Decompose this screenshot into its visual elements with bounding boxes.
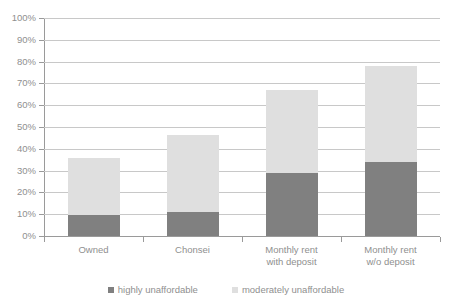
x-axis-label-4: Monthly rent w/o deposit bbox=[341, 244, 440, 268]
x-axis-label-3: Monthly rent with deposit bbox=[242, 244, 341, 268]
y-axis-label: 20% bbox=[0, 187, 36, 197]
x-axis-tick bbox=[44, 237, 45, 242]
y-axis-label: 90% bbox=[0, 35, 36, 45]
bar-segment-highly-unaffordable[interactable] bbox=[365, 162, 417, 236]
bar-segment-moderately-unaffordable[interactable] bbox=[68, 158, 120, 214]
y-axis-tick bbox=[39, 127, 44, 128]
bar-segment-highly-unaffordable[interactable] bbox=[266, 173, 318, 236]
x-axis-tick bbox=[143, 237, 144, 242]
y-axis-tick bbox=[39, 214, 44, 215]
x-axis-label-2: Chonsei bbox=[143, 244, 242, 256]
x-axis-label-1: Owned bbox=[44, 244, 143, 256]
bar-segment-moderately-unaffordable[interactable] bbox=[167, 135, 219, 211]
legend-item-1[interactable]: highly unaffordable bbox=[108, 285, 198, 295]
stacked-bar-chart: 100%90%80%70%60%50%40%30%20%10%0%OwnedCh… bbox=[0, 0, 452, 304]
y-axis-tick bbox=[39, 62, 44, 63]
y-axis-label: 40% bbox=[0, 144, 36, 154]
y-axis-label: 100% bbox=[0, 13, 36, 23]
legend-label: moderately unaffordable bbox=[242, 285, 344, 295]
bar-4[interactable] bbox=[365, 18, 417, 236]
chart-legend: highly unaffordablemoderately unaffordab… bbox=[0, 282, 452, 298]
legend-swatch-icon bbox=[108, 287, 114, 293]
x-axis-tick bbox=[440, 237, 441, 242]
legend-swatch-icon bbox=[232, 287, 238, 293]
x-axis-tick bbox=[341, 237, 342, 242]
y-axis-tick bbox=[39, 40, 44, 41]
y-axis-tick bbox=[39, 192, 44, 193]
bar-1[interactable] bbox=[68, 18, 120, 236]
y-axis-label: 30% bbox=[0, 166, 36, 176]
y-axis-label: 70% bbox=[0, 78, 36, 88]
y-axis-label: 60% bbox=[0, 100, 36, 110]
y-axis-tick bbox=[39, 171, 44, 172]
y-axis-label: 80% bbox=[0, 57, 36, 67]
bar-segment-highly-unaffordable[interactable] bbox=[167, 212, 219, 236]
y-axis-tick bbox=[39, 83, 44, 84]
bar-2[interactable] bbox=[167, 18, 219, 236]
y-axis-label: 0% bbox=[0, 231, 36, 241]
legend-item-2[interactable]: moderately unaffordable bbox=[232, 285, 344, 295]
legend-label: highly unaffordable bbox=[118, 285, 198, 295]
bar-segment-highly-unaffordable[interactable] bbox=[68, 215, 120, 236]
bar-segment-moderately-unaffordable[interactable] bbox=[266, 90, 318, 173]
y-axis-tick bbox=[39, 105, 44, 106]
y-axis-label: 10% bbox=[0, 209, 36, 219]
bar-segment-moderately-unaffordable[interactable] bbox=[365, 66, 417, 162]
y-axis-label: 50% bbox=[0, 122, 36, 132]
y-axis-tick bbox=[39, 18, 44, 19]
y-axis-tick bbox=[39, 149, 44, 150]
bar-3[interactable] bbox=[266, 18, 318, 236]
x-axis-tick bbox=[242, 237, 243, 242]
